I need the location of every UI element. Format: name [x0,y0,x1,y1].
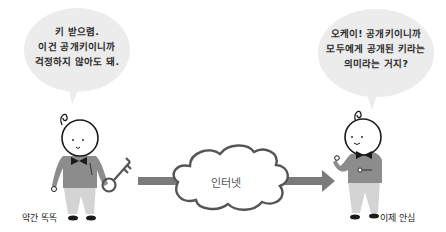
left-speech-line-1: 키 받으렴. [24,24,130,39]
left-person-figure [52,114,109,220]
right-speech-line-1: 오케이! 공개키이니까 [318,26,434,41]
left-arrow-bar [138,177,178,185]
left-speech-line-2: 이건 공개키이니까 [24,39,130,54]
right-speech-text: 오케이! 공개키이니까 모두에게 공개된 키라는 의미라는 거지? [318,26,434,71]
right-person-caption: 이제 안심 [380,211,415,224]
left-speech-text: 키 받으렴. 이건 공개키이니까 걱정하지 않아도 돼. [24,24,130,69]
key-icon [103,158,132,192]
left-person-caption: 약간 똑똑 [22,211,57,224]
right-person-figure [333,111,382,219]
left-speech-line-3: 걱정하지 않아도 돼. [24,54,130,69]
right-speech-line-3: 의미라는 거지? [318,56,434,71]
right-speech-line-2: 모두에게 공개된 키라는 [318,41,434,56]
internet-label: 인터넷 [211,174,241,190]
